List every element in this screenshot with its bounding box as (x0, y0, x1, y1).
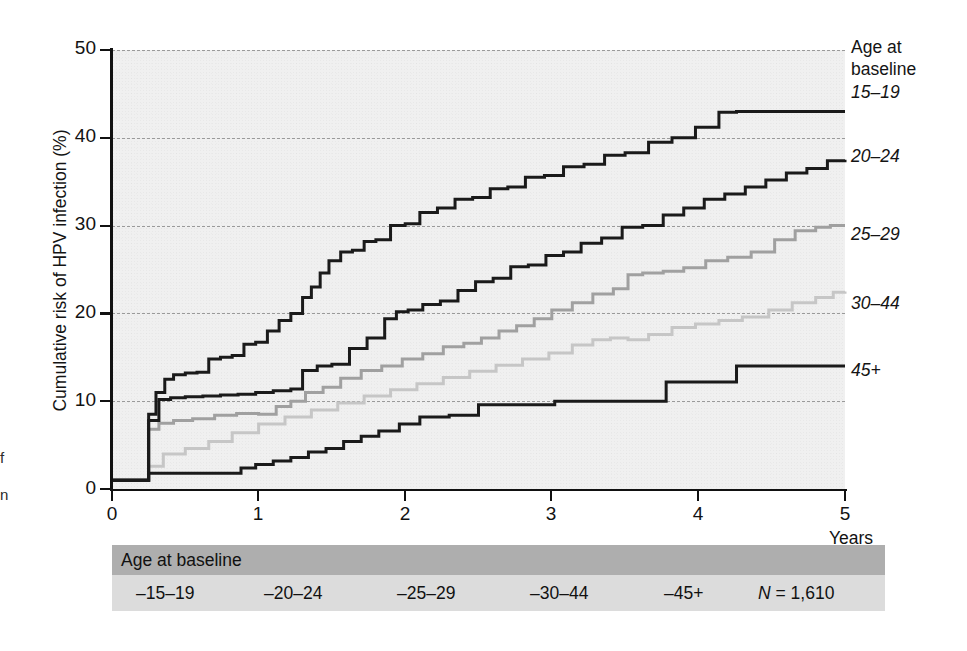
legend-title-line-2: baseline (851, 58, 967, 80)
x-tick-label-0: 0 (92, 503, 132, 525)
series-line-15-19 (112, 111, 845, 480)
table-cell-n-total: N = 1,610 (758, 583, 834, 604)
series-line-30-44 (112, 291, 845, 480)
y-tick-label-20: 20 (56, 301, 96, 323)
y-tick-40 (100, 137, 111, 139)
table-cell-25-29: –25–29 (397, 583, 455, 604)
table-cell-15-19: –15–19 (136, 583, 194, 604)
y-tick-0 (100, 488, 111, 490)
figure-root: f n Cumulative risk of HPV infection (%)… (0, 0, 967, 651)
table-cell-20-24: –20–24 (264, 583, 322, 604)
x-axis-line (110, 489, 847, 491)
risk-table: Age at baseline –15–19 –20–24 –25–29 –30… (112, 545, 885, 611)
legend: Age at baseline (851, 36, 967, 80)
x-tick-label-5: 5 (825, 503, 865, 525)
legend-title-line-1: Age at (851, 36, 967, 58)
legend-label-15-19: 15–19 (851, 82, 900, 103)
y-tick-label-50: 50 (56, 37, 96, 59)
y-tick-label-0: 0 (56, 477, 96, 499)
n-symbol: N (758, 583, 771, 603)
y-tick-label-40: 40 (56, 125, 96, 147)
table-cell-45-plus: –45+ (664, 583, 703, 604)
x-tick-label-2: 2 (385, 503, 425, 525)
x-tick-label-4: 4 (678, 503, 718, 525)
legend-label-25-29: 25–29 (851, 224, 900, 245)
x-tick-0 (111, 490, 113, 501)
x-tick-5 (844, 490, 846, 501)
table-cell-30-44: –30–44 (530, 583, 588, 604)
y-tick-label-30: 30 (56, 213, 96, 235)
y-tick-label-10: 10 (56, 389, 96, 411)
series-line-45+ (112, 366, 845, 480)
risk-table-row: –15–19 –20–24 –25–29 –30–44 –45+ N = 1,6… (112, 575, 885, 611)
x-tick-4 (697, 490, 699, 501)
y-tick-20 (100, 312, 111, 314)
x-tick-label-3: 3 (531, 503, 571, 525)
x-tick-label-1: 1 (238, 503, 278, 525)
legend-label-30-44: 30–44 (851, 293, 900, 314)
risk-table-header: Age at baseline (112, 545, 885, 575)
x-tick-1 (257, 490, 259, 501)
x-tick-2 (404, 490, 406, 501)
margin-text-fragment-2: n (0, 486, 8, 503)
series-curves (112, 50, 845, 489)
plot-area (112, 50, 845, 489)
legend-label-45-plus: 45+ (851, 360, 881, 381)
y-tick-50 (100, 49, 111, 51)
x-tick-3 (550, 490, 552, 501)
margin-text-fragment-1: f (0, 449, 4, 466)
y-tick-30 (100, 225, 111, 227)
y-tick-10 (100, 400, 111, 402)
legend-label-20-24: 20–24 (851, 146, 900, 167)
n-value: = 1,610 (776, 583, 835, 603)
y-axis-line (110, 48, 113, 491)
y-axis-title: Cumulative risk of HPV infection (%) (50, 61, 71, 481)
